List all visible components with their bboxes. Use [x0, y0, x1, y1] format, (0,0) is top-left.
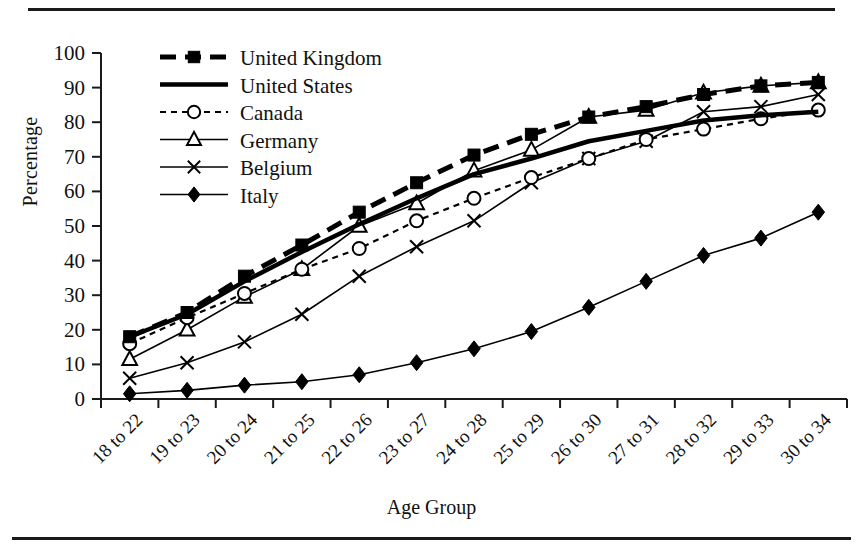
- y-tick-label: 20: [64, 318, 85, 342]
- marker-filled-diamond: [583, 299, 595, 315]
- marker-filled-square: [238, 270, 250, 282]
- series-canada: [123, 104, 825, 351]
- marker-open-circle: [295, 263, 308, 276]
- marker-cross-x: [295, 308, 308, 321]
- y-tick-label: 60: [64, 179, 85, 203]
- marker-open-triangle: [122, 351, 137, 365]
- y-tick-label: 0: [75, 387, 86, 411]
- series-line: [130, 95, 819, 379]
- marker-filled-diamond: [468, 341, 480, 357]
- legend-label: Italy: [240, 184, 279, 208]
- legend-item-united-kingdom: United Kingdom: [160, 46, 382, 70]
- marker-open-triangle: [187, 132, 201, 145]
- marker-cross-x: [468, 214, 481, 227]
- figure: Percentage Age Group 0102030405060708090…: [0, 0, 863, 554]
- marker-filled-square: [583, 111, 595, 123]
- marker-open-circle: [697, 123, 710, 136]
- marker-filled-square: [353, 206, 365, 218]
- marker-open-circle: [525, 171, 538, 184]
- marker-filled-diamond: [410, 355, 422, 371]
- legend-label: Canada: [240, 101, 304, 125]
- marker-filled-square: [755, 80, 767, 92]
- marker-open-circle: [640, 133, 653, 146]
- x-tick-label: 24 to 28: [432, 409, 491, 468]
- x-tick-label: 25 to 29: [489, 409, 548, 468]
- y-tick-label: 80: [64, 110, 85, 134]
- marker-open-circle: [188, 106, 200, 118]
- marker-filled-diamond: [188, 187, 200, 202]
- legend-item-united-states: United States: [160, 74, 353, 98]
- marker-open-circle: [468, 192, 481, 205]
- marker-cross-x: [181, 356, 194, 369]
- legend: United KingdomUnited StatesCanadaGermany…: [160, 46, 382, 208]
- legend-item-canada: Canada: [160, 101, 304, 125]
- marker-cross-x: [812, 88, 825, 101]
- marker-filled-square: [411, 177, 423, 189]
- marker-filled-square: [296, 239, 308, 251]
- x-tick-label: 26 to 30: [547, 409, 606, 468]
- marker-filled-square: [698, 89, 710, 101]
- marker-filled-diamond: [640, 273, 652, 289]
- y-tick-label: 40: [64, 249, 85, 273]
- marker-cross-x: [123, 372, 136, 385]
- line-chart-plot: 0102030405060708090100 18 to 2219 to 232…: [0, 0, 863, 554]
- marker-cross-x: [238, 335, 251, 348]
- marker-filled-diamond: [697, 247, 709, 263]
- marker-filled-diamond: [181, 382, 193, 398]
- legend-label: United States: [240, 74, 353, 98]
- marker-open-circle: [353, 242, 366, 255]
- x-tick-label: 27 to 31: [604, 409, 663, 468]
- marker-cross-x: [410, 240, 423, 253]
- marker-filled-diamond: [353, 367, 365, 383]
- marker-filled-square: [188, 51, 199, 62]
- y-tick-label: 30: [64, 283, 85, 307]
- legend-item-germany: Germany: [160, 129, 319, 153]
- marker-open-circle: [238, 287, 251, 300]
- marker-filled-square: [640, 101, 652, 113]
- x-tick-label: 23 to 27: [375, 409, 434, 468]
- x-tick-label: 22 to 26: [317, 409, 376, 468]
- y-tick-label: 90: [64, 76, 85, 100]
- marker-filled-diamond: [755, 230, 767, 246]
- marker-open-triangle: [524, 142, 539, 156]
- x-axis-ticks: 18 to 2219 to 2320 to 2421 to 2522 to 26…: [88, 399, 847, 468]
- series-line: [130, 110, 819, 344]
- legend-label: Belgium: [240, 156, 312, 180]
- y-tick-label: 50: [64, 214, 85, 238]
- legend-label: Germany: [240, 129, 319, 153]
- x-tick-label: 30 to 34: [776, 409, 835, 468]
- marker-filled-diamond: [812, 204, 824, 220]
- marker-open-circle: [582, 152, 595, 165]
- series-united-kingdom: [124, 76, 825, 342]
- x-tick-label: 21 to 25: [260, 409, 319, 468]
- legend-item-italy: Italy: [160, 184, 279, 208]
- marker-filled-diamond: [296, 374, 308, 390]
- y-tick-label: 70: [64, 145, 85, 169]
- x-tick-label: 29 to 33: [719, 409, 778, 468]
- marker-filled-square: [181, 307, 193, 319]
- series-italy: [123, 204, 824, 402]
- legend-label: United Kingdom: [240, 46, 382, 70]
- marker-filled-square: [124, 331, 136, 343]
- data-series: [122, 74, 825, 401]
- marker-filled-diamond: [525, 324, 537, 340]
- y-tick-label: 10: [64, 352, 85, 376]
- y-axis-ticks: 0102030405060708090100: [54, 41, 102, 411]
- marker-open-circle: [410, 214, 423, 227]
- x-tick-label: 28 to 32: [661, 409, 720, 468]
- legend-item-belgium: Belgium: [160, 156, 312, 180]
- marker-cross-x: [353, 270, 366, 283]
- x-tick-label: 20 to 24: [202, 409, 261, 468]
- x-tick-label: 18 to 22: [88, 409, 147, 468]
- x-tick-label: 19 to 23: [145, 409, 204, 468]
- y-tick-label: 100: [54, 41, 86, 65]
- marker-filled-square: [525, 128, 537, 140]
- marker-filled-diamond: [238, 377, 250, 393]
- marker-filled-square: [468, 149, 480, 161]
- marker-filled-square: [812, 76, 824, 88]
